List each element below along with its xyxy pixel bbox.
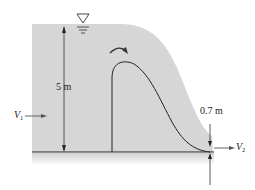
downstream-velocity-label: V2 [236,142,245,154]
upstream-velocity-label: V1 [14,110,23,122]
v1-subscript: 1 [20,114,23,121]
v2-subscript: 2 [242,146,245,153]
downstream-velocity-arrow [214,146,235,150]
downstream-depth-label: 0.7 m [200,106,223,116]
upstream-depth-label: 5 m [56,82,71,92]
bed-shadow [32,153,214,165]
diagram-canvas [0,0,255,190]
weir-flow-diagram: 5 m 0.7 m V1 V2 [0,0,255,190]
